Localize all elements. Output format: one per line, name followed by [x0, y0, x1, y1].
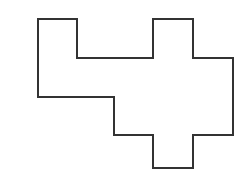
figure-canvas: Irregular rectilinear polygon outline A …	[0, 0, 249, 181]
rectilinear-polygon-shape	[38, 19, 233, 168]
polygon-figure: Irregular rectilinear polygon outline A …	[0, 0, 249, 181]
